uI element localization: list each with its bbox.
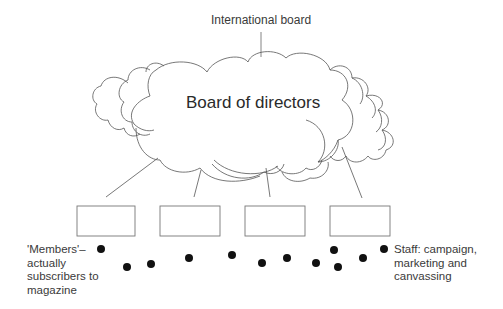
member-dot (380, 245, 388, 253)
members-annotation: 'Members'– actually subscribers to magaz… (27, 243, 99, 297)
unit-box-1 (77, 206, 135, 236)
unit-boxes (77, 206, 390, 236)
member-dot (258, 259, 266, 267)
members-annotation-line: actually (27, 257, 99, 271)
connector-unit-4 (342, 147, 362, 198)
unit-box-2 (160, 206, 220, 236)
members-annotation-line: subscribers to (27, 270, 99, 284)
members-annotation-line: magazine (27, 284, 99, 298)
unit-connectors (106, 147, 362, 198)
staff-annotation: Staff: campaign, marketing and canvassin… (394, 243, 477, 284)
international-board-label: International board (211, 14, 311, 28)
staff-annotation-line: canvassing (394, 270, 477, 284)
member-dot (283, 254, 291, 262)
unit-box-4 (330, 206, 390, 236)
member-dot (228, 251, 236, 259)
member-dot (185, 254, 193, 262)
member-dot (123, 263, 131, 271)
member-dot (312, 259, 320, 267)
member-dot (330, 246, 338, 254)
members-annotation-line: 'Members'– (27, 243, 99, 257)
connector-unit-2 (194, 170, 201, 197)
member-dot (359, 254, 367, 262)
staff-annotation-line: Staff: campaign, (394, 243, 477, 257)
member-dot (147, 260, 155, 268)
connector-unit-1 (106, 158, 158, 197)
board-of-directors-label: Board of directors (186, 93, 320, 113)
member-dot (334, 263, 342, 271)
connector-unit-3 (266, 168, 270, 197)
unit-box-3 (245, 206, 305, 236)
member-dots (97, 245, 388, 271)
staff-annotation-line: marketing and (394, 257, 477, 271)
